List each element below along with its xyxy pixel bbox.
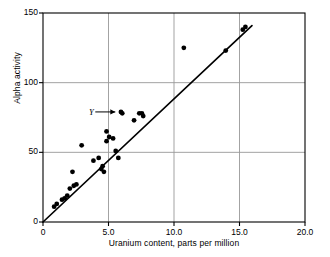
x-axis-ticks xyxy=(43,222,305,226)
data-point xyxy=(104,129,109,134)
data-point xyxy=(54,201,59,206)
x-tick-label: 10.0 xyxy=(160,227,188,237)
x-tick-label: 0 xyxy=(29,227,57,237)
x-axis-label: Uranium content, parts per million xyxy=(43,238,305,248)
annotation-arrow-head xyxy=(110,109,115,114)
point-annotation: Y xyxy=(89,107,115,117)
data-point xyxy=(223,48,228,53)
x-tick-label: 15.0 xyxy=(226,227,254,237)
chart-figure: Y Alpha activity Uranium content, parts … xyxy=(0,0,330,257)
y-tick-label: 0 xyxy=(14,216,38,226)
data-point xyxy=(70,169,75,174)
x-tick-label: 20.0 xyxy=(291,227,319,237)
regression-line xyxy=(43,26,252,222)
data-point xyxy=(65,193,70,198)
data-points xyxy=(52,25,248,210)
y-tick-label: 50 xyxy=(14,146,38,156)
y-axis-ticks xyxy=(39,13,43,222)
data-point xyxy=(181,45,186,50)
x-tick-label: 5.0 xyxy=(95,227,123,237)
data-point xyxy=(79,143,84,148)
y-tick-label: 100 xyxy=(14,77,38,87)
data-point xyxy=(91,158,96,163)
data-point xyxy=(96,156,101,161)
annotation-label-y: Y xyxy=(89,107,95,117)
data-point xyxy=(74,182,79,187)
data-point xyxy=(102,169,107,174)
data-point xyxy=(111,136,116,141)
y-tick-label: 150 xyxy=(14,7,38,17)
data-point xyxy=(116,156,121,161)
data-point xyxy=(100,164,105,169)
data-point xyxy=(67,186,72,191)
data-point xyxy=(104,139,109,144)
scatter-plot: Y xyxy=(0,0,330,257)
data-point xyxy=(141,114,146,119)
data-point xyxy=(132,118,137,123)
data-point xyxy=(120,111,125,116)
gridlines xyxy=(43,13,305,222)
data-point xyxy=(113,149,118,154)
data-point xyxy=(243,25,248,30)
